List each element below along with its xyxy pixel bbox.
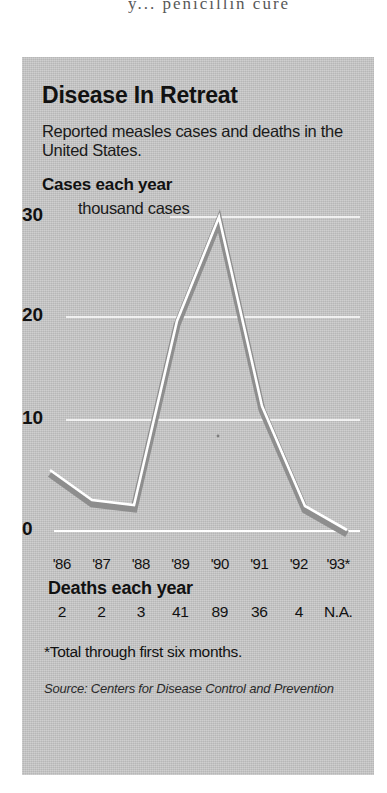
line-chart: thousand cases 30 20 10 0 [22, 201, 374, 553]
x-tick-89: '89 [161, 555, 201, 572]
deaths-91: 36 [240, 603, 280, 621]
page-title: Disease In Retreat [42, 57, 354, 108]
x-tick-87: '87 [82, 555, 122, 572]
deaths-90: 89 [200, 603, 240, 621]
x-tick-90: '90 [200, 555, 240, 572]
clipped-text-fragment: y... penicillin cure [128, 0, 384, 14]
panel-subtitle: Reported measles cases and deaths in the… [42, 122, 354, 159]
scan-speck [217, 435, 220, 438]
source-credit: Source: Centers for Disease Control and … [22, 681, 374, 697]
deaths-93: N.A. [319, 603, 359, 621]
x-tick-92: '92 [279, 555, 319, 572]
x-axis-year-labels: '86 '87 '88 '89 '90 '91 '92 '93* [22, 555, 374, 572]
deaths-89: 41 [161, 603, 201, 621]
deaths-92: 4 [279, 603, 319, 621]
deaths-86: 2 [42, 603, 82, 621]
infographic-panel: Disease In Retreat Reported measles case… [22, 57, 374, 775]
deaths-87: 2 [82, 603, 122, 621]
x-tick-93: '93* [319, 555, 359, 572]
deaths-section-label: Deaths each year [22, 578, 374, 599]
panel-header: Disease In Retreat Reported measles case… [22, 57, 374, 195]
footnote: *Total through first six months. [22, 643, 374, 661]
x-tick-91: '91 [240, 555, 280, 572]
chart-plot-area [22, 201, 374, 553]
deaths-88: 3 [121, 603, 161, 621]
x-tick-86: '86 [42, 555, 82, 572]
deaths-value-row: 2 2 3 41 89 36 4 N.A. [22, 603, 374, 621]
cases-section-label: Cases each year [42, 175, 354, 195]
x-tick-88: '88 [121, 555, 161, 572]
